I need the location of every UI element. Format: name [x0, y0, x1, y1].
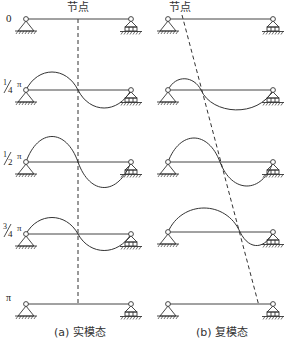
svg-text:π: π — [17, 79, 22, 89]
phase-label-pi: π — [6, 292, 11, 303]
node-label-complex: 节点 — [169, 1, 191, 14]
complex-mode-panel — [157, 15, 284, 320]
real-mode-row-0 — [15, 17, 142, 35]
complex-mode-row-three-quarter-pi — [157, 208, 284, 248]
svg-text:1: 1 — [3, 78, 7, 87]
svg-text:4: 4 — [8, 85, 13, 95]
phase-label-half-pi: 1 2 π — [3, 150, 22, 167]
real-mode-panel — [15, 17, 142, 320]
phase-label-three-quarter-pi: 3 4 π — [3, 222, 22, 239]
svg-text:π: π — [17, 151, 22, 161]
svg-text:4: 4 — [8, 229, 13, 239]
node-line-complex — [182, 15, 259, 306]
svg-text:π: π — [17, 223, 22, 233]
modal-shape-diagram: 节点 节点 0 1 4 π 1 2 π 3 4 π π — [0, 0, 289, 354]
svg-text:0: 0 — [6, 12, 12, 24]
real-mode-row-pi — [15, 302, 142, 320]
caption-real-mode: (a) 实模态 — [54, 325, 106, 339]
caption-complex-mode: (b) 复模态 — [196, 325, 248, 339]
complex-mode-row-quarter-pi — [157, 79, 284, 110]
real-mode-row-half-pi — [15, 137, 142, 188]
phase-label-0: 0 — [6, 12, 12, 24]
svg-text:1: 1 — [3, 150, 7, 159]
node-label-real: 节点 — [67, 1, 89, 14]
svg-text:π: π — [6, 292, 11, 303]
complex-mode-row-half-pi — [157, 138, 284, 186]
complex-mode-row-0 — [157, 17, 284, 35]
complex-mode-row-pi — [157, 302, 284, 320]
svg-text:2: 2 — [8, 157, 13, 167]
phase-label-quarter-pi: 1 4 π — [3, 78, 22, 95]
svg-text:3: 3 — [3, 222, 7, 231]
